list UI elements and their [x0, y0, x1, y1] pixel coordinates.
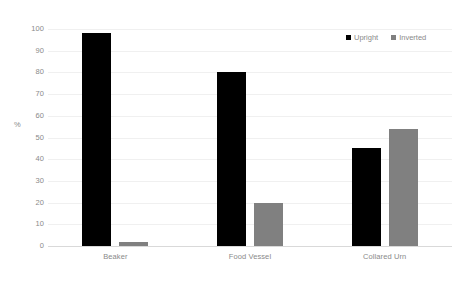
- plot-area: [48, 29, 452, 246]
- y-tick-label-90: 90: [4, 47, 44, 55]
- y-tick-label-70: 70: [4, 90, 44, 98]
- bar-beaker-upright: [82, 33, 111, 246]
- y-axis-tick-labels: 0102030405060708090100: [0, 29, 44, 246]
- y-tick-label-30: 30: [4, 177, 44, 185]
- y-axis-title: %: [14, 120, 21, 129]
- legend-swatch-icon-upright: [346, 35, 351, 40]
- bar-food-vessel-upright: [217, 72, 246, 246]
- x-tick-label-beaker: Beaker: [48, 252, 183, 262]
- x-axis-tick-labels: BeakerFood VesselCollared Urn: [48, 252, 452, 268]
- legend-entry-inverted[interactable]: Inverted: [391, 33, 426, 42]
- bar-collared-urn-upright: [352, 148, 381, 246]
- bar-food-vessel-inverted: [254, 203, 283, 246]
- y-tick-label-0: 0: [4, 242, 44, 250]
- gridline-0: [48, 246, 452, 247]
- bar-chart: 0102030405060708090100 % BeakerFood Vess…: [0, 0, 465, 282]
- bar-collared-urn-inverted: [389, 129, 418, 246]
- y-tick-label-80: 80: [4, 68, 44, 76]
- legend-entry-upright[interactable]: Upright: [346, 33, 378, 42]
- y-tick-label-100: 100: [4, 25, 44, 33]
- x-tick-label-food-vessel: Food Vessel: [183, 252, 318, 262]
- legend-swatch-icon-inverted: [391, 35, 396, 40]
- legend-label-upright: Upright: [354, 33, 378, 42]
- bar-beaker-inverted: [119, 242, 148, 246]
- y-tick-label-20: 20: [4, 199, 44, 207]
- y-tick-label-10: 10: [4, 220, 44, 228]
- legend-label-inverted: Inverted: [399, 33, 426, 42]
- x-tick-label-collared-urn: Collared Urn: [317, 252, 452, 262]
- y-tick-label-40: 40: [4, 155, 44, 163]
- chart-legend: UprightInverted: [346, 33, 426, 42]
- y-tick-label-50: 50: [4, 134, 44, 142]
- y-tick-label-60: 60: [4, 112, 44, 120]
- gridline-100: [48, 29, 452, 30]
